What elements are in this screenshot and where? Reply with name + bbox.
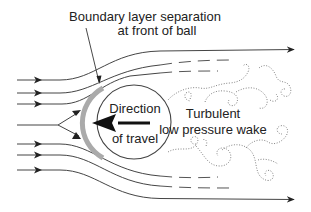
ball-label-line2: of travel <box>112 131 158 146</box>
separation-label-line2: at front of ball <box>118 23 197 38</box>
separation-label-line1: Boundary layer separation <box>69 9 221 24</box>
upper-wake-streamlines <box>160 60 232 73</box>
ball-airflow-diagram: Boundary layer separation at front of ba… <box>0 0 311 212</box>
ball-label-line1: Direction <box>109 101 160 116</box>
lower-wake-streamlines <box>160 176 232 188</box>
wake-label-line2: low pressure wake <box>159 122 267 137</box>
ball: Direction of travel <box>82 85 171 159</box>
wake-label-line1: Turbulent <box>186 106 241 121</box>
